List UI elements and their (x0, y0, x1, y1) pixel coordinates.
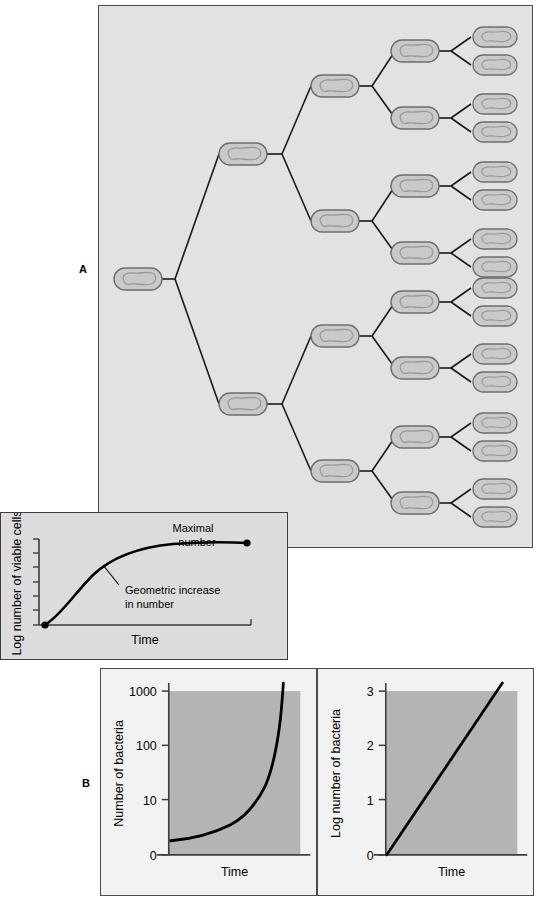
bacterial-cell (311, 210, 359, 232)
bacterial-cell (219, 143, 267, 165)
bacterial-cell (311, 75, 359, 97)
binary-fission-tree (99, 6, 534, 549)
bacterial-cell (391, 242, 439, 264)
y-axis-label: Log number of bacteria (329, 709, 343, 838)
bacterial-cell (391, 175, 439, 197)
inset-growth-curve-chart: Log number of viable cells Time Maximal … (0, 512, 288, 660)
y-tick-label-1000: 1000 (129, 685, 157, 699)
y-tick-label-0: 0 (150, 849, 157, 863)
generation-4-cells (391, 40, 439, 514)
geometric-increase-line2: in number (125, 598, 174, 610)
plot-area-fill (386, 691, 518, 855)
bacterial-cell (473, 413, 517, 433)
bacterial-cell (473, 306, 517, 326)
bacterial-cell (473, 257, 517, 277)
inset-chart-svg: Log number of viable cells Time Maximal … (1, 513, 289, 661)
y-tick-label-2: 2 (367, 739, 374, 753)
bacterial-cell (391, 291, 439, 313)
bacterial-cell (473, 94, 517, 114)
bacterial-cell (473, 122, 517, 142)
panel-a-container (98, 5, 533, 548)
bacterial-cell (473, 344, 517, 364)
bacterial-cell (391, 357, 439, 379)
bacterial-cell (473, 27, 517, 47)
x-axis-label: Time (221, 865, 248, 879)
generation-5-cells (473, 27, 517, 527)
bacterial-cell (311, 460, 359, 482)
panel-label-a: A (79, 263, 87, 275)
y-tick-label-100: 100 (136, 739, 157, 753)
bacterial-cell (473, 55, 517, 75)
bacterial-cell (473, 229, 517, 249)
bacterial-cell (473, 278, 517, 298)
y-ticks (379, 691, 386, 855)
bacterial-cell (473, 441, 517, 461)
y-tick-label-10: 10 (143, 794, 157, 808)
bacterial-cell (391, 492, 439, 514)
bacterial-cell (114, 268, 162, 290)
logarithmic-growth-chart: 0 1 2 3 Log number of bacteria Time (318, 669, 533, 895)
maximal-point-marker (243, 539, 250, 546)
x-axis-label: Time (438, 865, 465, 879)
y-ticks (162, 691, 169, 855)
inset-x-axis-label: Time (131, 633, 158, 647)
y-axis-label: Number of bacteria (112, 720, 126, 827)
panel-b-container: 0 10 100 1000 Number of bacteria Time 0 … (100, 668, 534, 896)
bacterial-cell (473, 162, 517, 182)
bacterial-cell (391, 107, 439, 129)
maximal-number-line1: Maximal (173, 522, 214, 534)
geometric-increase-leader (103, 565, 119, 585)
bacterial-cell (473, 190, 517, 210)
inset-y-axis-label: Log number of viable cells (10, 513, 24, 656)
inset-y-ticks (33, 539, 39, 625)
y-tick-label-3: 3 (367, 685, 374, 699)
arithmetic-growth-chart: 0 10 100 1000 Number of bacteria Time (101, 669, 316, 895)
generation-3-cells (311, 75, 359, 482)
bacterial-cell (473, 479, 517, 499)
start-point-marker (41, 621, 48, 628)
bacterial-cell (311, 325, 359, 347)
bacterial-cell (391, 40, 439, 62)
bacterial-cell (473, 372, 517, 392)
panel-label-b: B (82, 777, 90, 789)
generation-1-cells (114, 268, 162, 290)
bacterial-cell (391, 426, 439, 448)
generation-2-cells (219, 143, 267, 415)
bacterial-cell (219, 393, 267, 415)
maximal-number-line2: number (178, 536, 216, 548)
arithmetic-chart-svg: 0 10 100 1000 Number of bacteria Time (101, 669, 316, 895)
logarithmic-chart-svg: 0 1 2 3 Log number of bacteria Time (318, 669, 533, 895)
y-tick-label-1: 1 (367, 794, 374, 808)
y-tick-label-0: 0 (367, 849, 374, 863)
geometric-increase-line1: Geometric increase (125, 584, 220, 596)
bacterial-cell (473, 507, 517, 527)
